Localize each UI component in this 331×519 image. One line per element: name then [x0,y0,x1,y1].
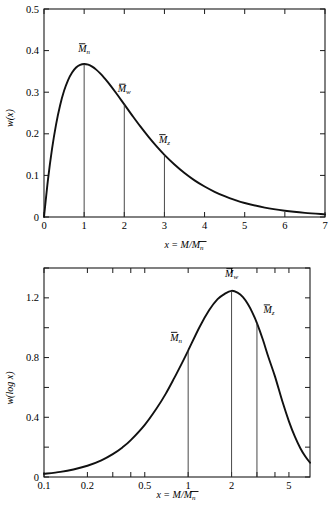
x-axis-label-eq-linear: = [171,239,178,250]
distribution-curve-log [44,291,310,474]
x-tick-label: 7 [322,220,327,231]
x-tick-label: 2 [122,220,127,231]
x-tick-label: 3 [162,220,167,231]
x-axis-label-linear: x = M/Mn [163,239,206,252]
annotation-w: Mw [224,268,238,281]
moment-annotations-log: MnMwMz [169,268,275,345]
annotation-z: Mz [262,304,274,317]
x-tick-label: 0 [41,220,46,231]
chart-panel-linear: 01234567 00.10.20.30.40.5 MnMwMz w(x) x … [0,0,331,260]
x-tick-label: 0.2 [81,480,94,491]
y-tick-label: 0.4 [26,412,40,423]
y-tick-label: 0 [34,212,39,223]
x-tick-label: 6 [282,220,287,231]
plot-frame-linear [44,9,325,217]
y-tick-label: 0.1 [26,170,39,181]
y-tick-label: 0.5 [26,4,39,15]
x-tick-label: 5 [286,480,291,491]
x-axis-label-den-sub-linear: n [200,244,204,252]
annotation-n: Mn [169,332,182,345]
x-tick-labels-linear: 01234567 [41,220,327,231]
x-tick-label: 4 [202,220,208,231]
linear-distribution-svg: 01234567 00.10.20.30.40.5 MnMwMz w(x) x … [0,0,331,260]
y-tick-label: 0 [34,472,39,483]
y-axis-label-log: w(log x) [4,371,16,405]
distribution-curve-linear [44,64,325,217]
annotation-n: Mn [77,43,90,56]
svg-text:w(log x): w(log x) [4,371,16,405]
y-tick-label: 0.3 [26,87,39,98]
annotation-z: Mz [158,134,170,147]
y-tick-label: 0.4 [26,45,40,56]
y-tick-label: 1.2 [26,292,39,303]
figure-container: 01234567 00.10.20.30.40.5 MnMwMz w(x) x … [0,0,331,519]
annotation-w: Mw [117,83,131,96]
y-tick-labels-linear: 00.10.20.30.40.5 [26,4,40,223]
x-tick-label: 2 [229,480,234,491]
y-tick-labels-log: 00.40.81.2 [26,292,40,482]
x-tick-label: 0.1 [37,480,50,491]
x-tick-label: 5 [242,220,247,231]
y-tick-label: 0.2 [26,128,39,139]
chart-panel-log: 0.10.20.5125 00.40.81.2 MnMwMz w(log x) … [0,260,331,519]
svg-text:x = M/Mn: x = M/Mn [163,239,204,252]
x-tick-label: 1 [82,220,87,231]
axis-ticks-linear [44,9,325,217]
moment-annotations-linear: MnMwMz [77,43,170,147]
y-axis-label-linear: w(x) [4,108,16,126]
x-axis-label-den-sub-log: n [192,494,196,502]
x-tick-label: 0.5 [138,480,151,491]
moment-droplines-log [188,291,257,477]
svg-text:w(x): w(x) [4,108,16,126]
x-axis-label-eq-log: = [163,489,170,500]
svg-text:x = M/Mn: x = M/Mn [155,489,196,502]
y-axis-label-arg-log: log x [4,374,15,394]
x-axis-label-log: x = M/Mn [155,489,198,502]
y-tick-label: 0.8 [26,352,39,363]
log-distribution-svg: 0.10.20.5125 00.40.81.2 MnMwMz w(log x) … [0,260,331,519]
